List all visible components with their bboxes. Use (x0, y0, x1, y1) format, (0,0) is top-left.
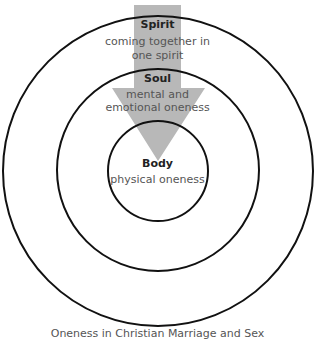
soul-desc-line1: mental and (0, 88, 315, 101)
soul-title: Soul (0, 72, 315, 85)
figure-caption: Oneness in Christian Marriage and Sex (0, 327, 315, 340)
spirit-title: Spirit (0, 18, 315, 31)
body-title: Body (0, 157, 315, 170)
spirit-desc-line2: one spirit (0, 49, 315, 62)
spirit-desc-line1: coming together in (0, 35, 315, 48)
body-desc-line1: physical oneness (0, 173, 315, 186)
soul-desc-line2: emotional oneness (0, 101, 315, 114)
